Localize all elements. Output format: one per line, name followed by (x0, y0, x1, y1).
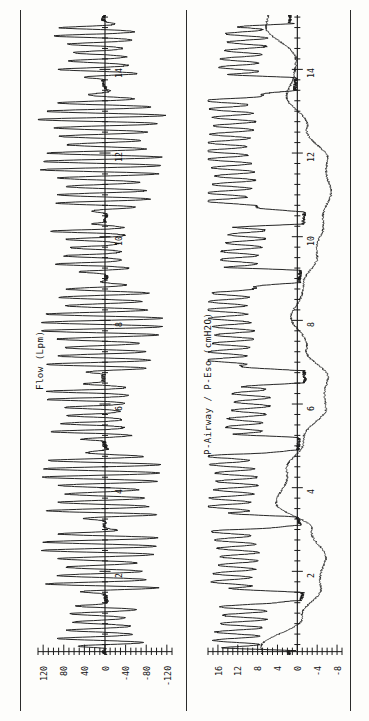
time-tick-label: 12 (306, 152, 316, 162)
amplitude-tick-label: 4 (273, 666, 283, 671)
time-tick-label: 4 (306, 489, 316, 494)
time-tick-label: 2 (306, 573, 316, 578)
amplitude-tick-label: -4 (313, 666, 323, 676)
time-tick-label: 8 (114, 322, 124, 327)
amplitude-tick-label: 120 (39, 666, 49, 681)
amplitude-tick-label: -120 (163, 666, 173, 686)
time-tick-label: 6 (306, 406, 316, 411)
amplitude-tick-label: -80 (142, 666, 152, 681)
plot-area-pressure (200, 15, 350, 655)
time-tick-label: 14 (114, 69, 124, 79)
time-tick-label: 10 (306, 236, 316, 246)
amplitude-tick-label: 16 (214, 666, 224, 676)
amplitude-tick-label: 80 (59, 666, 69, 676)
amplitude-tick-label: 40 (80, 666, 90, 676)
amplitude-tick-label: -8 (333, 666, 343, 676)
amplitude-tick-label: 8 (253, 666, 263, 671)
plot-area-flow (30, 15, 180, 655)
amplitude-tick-label: -40 (121, 666, 131, 681)
time-tick-label: 6 (114, 406, 124, 411)
figure-canvas: Flow (Lpm) 12080400-40-80-120 2468101214… (0, 0, 369, 721)
time-tick-label: 8 (306, 322, 316, 327)
time-tick-label: 12 (114, 152, 124, 162)
panel-flow: Flow (Lpm) 12080400-40-80-120 2468101214 (0, 0, 186, 721)
amplitude-tick-label: 0 (101, 666, 111, 671)
amplitude-tick-label: 12 (233, 666, 243, 676)
time-tick-label: 10 (114, 236, 124, 246)
time-tick-label: 4 (114, 489, 124, 494)
time-tick-label: 14 (306, 69, 316, 79)
amplitude-tick-label: 0 (293, 666, 303, 671)
time-tick-label: 2 (114, 573, 124, 578)
panel-pressure: P-Airway / P-Eso (cmH2O) 1612840-4-8 246… (186, 0, 369, 721)
